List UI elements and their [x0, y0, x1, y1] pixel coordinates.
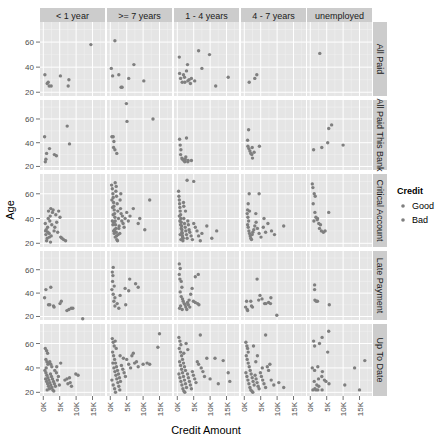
facet-panel [307, 174, 372, 247]
y-tick-label: 60 [25, 190, 34, 199]
facet-panel [307, 100, 372, 170]
row-strip-label: All Paid [375, 44, 385, 75]
x-tick-label: 15K [156, 401, 165, 416]
y-axis-title: Age [4, 200, 16, 220]
y-tick-label: 60 [25, 115, 34, 124]
facet-panel [307, 22, 372, 96]
x-tick-label: 15K [223, 401, 232, 416]
x-tick-label: 15K [290, 401, 299, 416]
facet-panel [107, 324, 172, 396]
x-tick-label: 15K [89, 401, 98, 416]
row-strip-label: All Paid This Bank [375, 99, 385, 172]
y-tick-label: 40 [25, 139, 34, 148]
y-tick-label: 40 [25, 289, 34, 298]
row-strip: All Paid [373, 22, 387, 96]
data-points [318, 52, 321, 55]
y-tick-label: 20 [25, 312, 34, 321]
row-strip-label: Late Payment [375, 258, 385, 314]
facet-panel [174, 22, 239, 96]
facet-panel [107, 251, 172, 320]
facet-panel [107, 100, 172, 170]
x-tick-label: 10K [339, 401, 348, 416]
row-strip: All Paid This Bank [373, 99, 387, 172]
plot-panels [40, 22, 372, 396]
legend: Credit Good Bad [397, 186, 434, 225]
column-strip-label: 1 - 4 years [185, 11, 228, 21]
row-strip: Critical Account [373, 174, 387, 247]
column-strip-label: 4 - 7 years [252, 11, 295, 21]
facet-panel [107, 22, 172, 96]
y-tick-label: 60 [25, 340, 34, 349]
y-tick-label: 40 [25, 63, 34, 72]
row-strip-label: Critical Account [375, 179, 385, 242]
column-facet-strips: < 1 year>= 7 years1 - 4 years4 - 7 years… [40, 8, 372, 22]
column-strip: >= 7 years [107, 8, 172, 22]
x-tick-label: 15K [356, 401, 365, 416]
x-axis: 0K5K10K15K0K5K10K15K0K5K10K15K0K5K10K15K… [39, 396, 364, 416]
faceted-scatter-chart: < 1 year>= 7 years1 - 4 years4 - 7 years… [0, 0, 447, 443]
y-tick-label: 20 [25, 162, 34, 171]
facet-panel [307, 251, 372, 320]
row-strip: Late Payment [373, 251, 387, 320]
x-tick-label: 5K [323, 401, 332, 411]
x-tick-label: 0K [173, 401, 182, 411]
column-strip: unemployed [307, 8, 372, 22]
y-tick-label: 20 [25, 388, 34, 397]
y-tick-label: 40 [25, 364, 34, 373]
x-tick-label: 0K [39, 401, 48, 411]
legend-item-good: Good [401, 201, 434, 211]
facet-panel [241, 100, 306, 170]
facet-panel [40, 100, 105, 170]
y-tick-label: 40 [25, 215, 34, 224]
x-tick-label: 10K [139, 401, 148, 416]
x-tick-label: 0K [106, 401, 115, 411]
legend-point-icon [401, 204, 405, 208]
row-strip: Up To Date [373, 324, 387, 396]
x-tick-label: 0K [240, 401, 249, 411]
y-tick-label: 20 [25, 239, 34, 248]
row-strip-label: Up To Date [375, 338, 385, 383]
column-strip: < 1 year [40, 8, 105, 22]
y-tick-label: 60 [25, 38, 34, 47]
x-tick-label: 5K [123, 401, 132, 411]
x-tick-label: 5K [257, 401, 266, 411]
x-tick-label: 5K [56, 401, 65, 411]
legend-label-good: Good [412, 201, 434, 211]
x-tick-label: 10K [206, 401, 215, 416]
facet-panel [241, 22, 306, 96]
x-tick-label: 10K [72, 401, 81, 416]
column-strip-label: >= 7 years [118, 11, 161, 21]
x-axis-title: Credit Amount [171, 424, 241, 436]
x-tick-label: 0K [306, 401, 315, 411]
legend-label-bad: Bad [412, 215, 428, 225]
column-strip-label: < 1 year [56, 11, 89, 21]
legend-item-bad: Bad [401, 215, 428, 225]
legend-point-icon [401, 218, 405, 222]
row-facet-strips: All PaidAll Paid This BankCritical Accou… [373, 22, 387, 396]
legend-title: Credit [397, 186, 423, 196]
y-tick-label: 20 [25, 88, 34, 97]
x-tick-label: 10K [273, 401, 282, 416]
x-tick-label: 5K [190, 401, 199, 411]
y-tick-label: 60 [25, 266, 34, 275]
y-axis: 204060204060204060204060204060 [25, 38, 40, 397]
column-strip-label: unemployed [315, 11, 364, 21]
column-strip: 1 - 4 years [174, 8, 239, 22]
column-strip: 4 - 7 years [241, 8, 306, 22]
facet-panel [241, 251, 306, 320]
